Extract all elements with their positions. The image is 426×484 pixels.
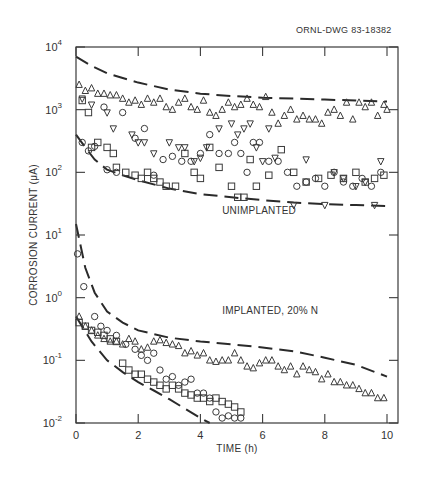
triangle-marker <box>188 347 194 353</box>
circle-marker <box>101 104 107 110</box>
triangle-marker <box>350 116 356 122</box>
triangle-marker <box>231 103 237 109</box>
square-marker <box>85 109 91 115</box>
triangle-marker <box>318 375 324 381</box>
triangle-marker <box>312 368 318 374</box>
y-tick-label: 101 <box>45 226 62 241</box>
circle-marker <box>138 352 144 358</box>
triangle-marker <box>368 389 374 395</box>
triangle-marker <box>312 116 318 122</box>
square-marker <box>238 409 244 415</box>
triangle-marker <box>294 116 300 122</box>
circle-marker <box>225 150 231 156</box>
y-tick-label: 104 <box>45 38 62 53</box>
square-marker <box>197 175 203 181</box>
triangle-marker <box>138 101 144 107</box>
inverted-triangle-marker <box>88 102 94 108</box>
triangle-marker <box>269 357 275 363</box>
circle-marker <box>284 169 290 175</box>
annotation-label: UNIMPLANTED <box>222 205 296 216</box>
square-marker <box>291 169 297 175</box>
y-tick-label: 100 <box>45 289 62 304</box>
x-tick-label: 8 <box>322 429 328 441</box>
x-tick-label: 4 <box>197 429 203 441</box>
square-marker <box>119 360 125 366</box>
x-tick-label: 6 <box>260 429 266 441</box>
inverted-triangle-marker <box>247 121 253 127</box>
triangle-marker <box>151 99 157 105</box>
triangle-marker <box>200 349 206 355</box>
triangle-marker <box>119 95 125 101</box>
circle-marker <box>98 323 104 329</box>
triangle-marker <box>287 363 293 369</box>
inverted-triangle-marker <box>378 159 384 165</box>
triangle-marker <box>175 99 181 105</box>
triangle-marker <box>194 106 200 112</box>
triangle-marker <box>318 120 324 126</box>
inverted-triangle-marker <box>322 202 328 208</box>
triangle-marker <box>300 112 306 118</box>
circle-marker <box>179 158 185 164</box>
triangle-marker <box>144 95 150 101</box>
triangle-marker <box>182 95 188 101</box>
triangle-marker <box>163 339 169 345</box>
inverted-triangle-marker <box>166 140 172 146</box>
circle-marker <box>157 367 163 373</box>
triangle-marker <box>275 363 281 369</box>
triangle-marker <box>95 90 101 96</box>
triangle-marker <box>256 360 262 366</box>
square-marker <box>253 183 259 189</box>
square-marker <box>231 404 237 410</box>
triangle-marker <box>219 106 225 112</box>
circle-marker <box>151 350 157 356</box>
circle-marker <box>119 109 125 115</box>
inverted-triangle-marker <box>135 140 141 146</box>
triangle-marker <box>175 342 181 348</box>
square-marker <box>266 172 272 178</box>
triangle-marker <box>207 109 213 115</box>
triangle-marker <box>219 357 225 363</box>
square-marker <box>219 398 225 404</box>
triangle-marker <box>132 338 138 344</box>
circle-marker <box>368 183 374 189</box>
triangle-marker <box>374 394 380 400</box>
circle-marker <box>225 413 231 419</box>
circle-marker <box>303 179 309 185</box>
inverted-triangle-marker <box>235 132 241 138</box>
square-marker <box>110 150 116 156</box>
x-axis-title: TIME (h) <box>216 443 257 454</box>
triangle-marker <box>163 103 169 109</box>
triangle-marker <box>113 92 119 98</box>
circle-marker <box>231 415 237 421</box>
circle-marker <box>81 283 87 289</box>
y-tick-label: 103 <box>45 101 62 116</box>
triangle-marker <box>275 120 281 126</box>
square-marker <box>157 179 163 185</box>
circle-marker <box>169 153 175 159</box>
y-axis-title: CORROSION CURRENT (μA) <box>28 164 39 306</box>
triangle-marker <box>250 101 256 107</box>
circle-marker <box>238 150 244 156</box>
circle-marker <box>322 183 328 189</box>
square-marker <box>132 371 138 377</box>
triangle-marker <box>269 109 275 115</box>
circle-marker <box>163 376 169 382</box>
y-tick-label: 10-1 <box>43 351 63 366</box>
triangle-marker <box>194 352 200 358</box>
triangle-marker <box>101 90 107 96</box>
triangle-marker <box>88 85 94 91</box>
triangle-marker <box>231 349 237 355</box>
triangle-marker <box>343 382 349 388</box>
inverted-triangle-marker <box>141 140 147 146</box>
triangle-marker <box>281 112 287 118</box>
square-marker <box>228 183 234 189</box>
triangle-marker <box>182 349 188 355</box>
circle-marker <box>141 125 147 131</box>
x-tick-label: 10 <box>381 429 393 441</box>
square-marker <box>225 401 231 407</box>
triangle-marker <box>331 378 337 384</box>
triangle-marker <box>169 341 175 347</box>
triangle-marker <box>294 371 300 377</box>
y-tick-label: 10-2 <box>43 414 63 429</box>
triangle-marker <box>157 95 163 101</box>
